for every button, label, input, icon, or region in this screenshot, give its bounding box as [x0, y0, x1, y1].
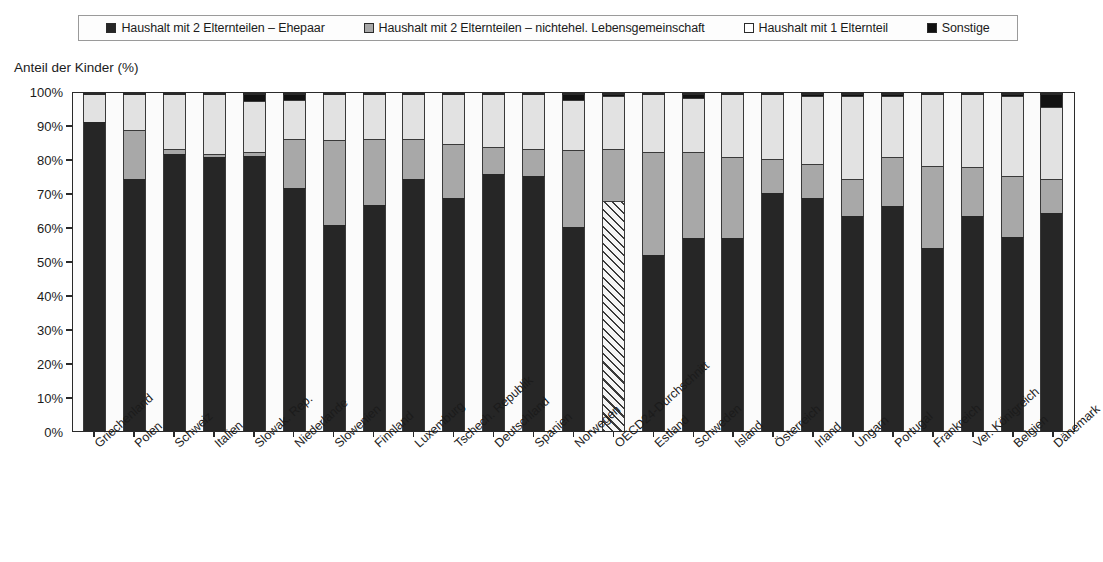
bar-segment-2 [442, 93, 465, 144]
x-axis-tick-mark [772, 432, 774, 437]
chart-legend: Haushalt mit 2 Elternteilen – EhepaarHau… [78, 15, 1018, 41]
bar-segment-1 [682, 152, 705, 238]
filled-black-square-icon [106, 23, 116, 33]
bar-segment-1 [1001, 176, 1024, 237]
bar-segment-0 [363, 205, 386, 431]
bar-segment-2 [1001, 96, 1024, 175]
bar-d-nemark[interactable] [1040, 93, 1063, 431]
legend-item-3[interactable]: Sonstige [927, 21, 990, 35]
bar-segment-2 [482, 93, 505, 147]
bar-sterreich[interactable] [761, 93, 784, 431]
bar-estland[interactable] [642, 93, 665, 431]
bar-top-cap [841, 93, 864, 95]
x-axis-label-slot: Estland [642, 438, 665, 548]
x-axis-label-slot: Schweiz [162, 438, 185, 548]
x-axis-tick-mark [613, 432, 615, 437]
bar-slowenien[interactable] [323, 93, 346, 431]
bar-oecd24-durchschnitt[interactable] [602, 93, 625, 431]
bar-segment-2 [283, 100, 306, 139]
bar-segment-1 [522, 149, 545, 176]
bar-segment-2 [801, 96, 824, 164]
bar-irland[interactable] [801, 93, 824, 431]
bar-segment-2 [841, 96, 864, 179]
bar-ungarn[interactable] [841, 93, 864, 431]
bar-portugal[interactable] [881, 93, 904, 431]
x-axis-label-slot: Deutschland [482, 438, 505, 548]
bar-segment-1 [602, 149, 625, 201]
bar-segment-2 [363, 93, 386, 139]
bar-tschech-republik[interactable] [442, 93, 465, 431]
chart-plot-area [72, 92, 1075, 432]
x-axis-label-slot: Slowak. Rep. [242, 438, 265, 548]
y-axis-title: Anteil der Kinder (%) [14, 60, 139, 75]
y-axis-tick-label: 100% [30, 86, 72, 99]
x-axis-label-slot: Irland [802, 438, 825, 548]
bar-segment-2 [323, 93, 346, 140]
bar-segment-0 [482, 174, 505, 431]
x-axis-tick-mark [573, 432, 575, 437]
x-axis-labels: GriechenlandPolenSchweizItalienSlowak. R… [72, 438, 1075, 548]
bar-norwegen[interactable] [562, 93, 585, 431]
legend-item-2[interactable]: Haushalt mit 1 Elternteil [744, 21, 889, 35]
bar-top-cap [642, 93, 665, 95]
x-axis-tick-mark [812, 432, 814, 437]
legend-item-label: Sonstige [942, 21, 990, 35]
x-axis-label-slot: Ungarn [842, 438, 865, 548]
bar-belgien[interactable] [1001, 93, 1024, 431]
legend-item-0[interactable]: Haushalt mit 2 Elternteilen – Ehepaar [106, 21, 324, 35]
bar-top-cap [761, 93, 784, 95]
bar-top-cap [363, 93, 386, 95]
x-axis-label-slot: OECD24-Durchschnitt [602, 438, 625, 548]
bar-segment-0 [442, 198, 465, 431]
bar-segment-2 [642, 93, 665, 152]
bar-segment-1 [562, 150, 585, 226]
bar-segment-0 [243, 156, 266, 431]
bar-segment-2 [682, 98, 705, 152]
bar-segment-1 [921, 166, 944, 249]
filled-dark-square-icon [927, 23, 937, 33]
bar-top-cap [402, 93, 425, 95]
legend-item-1[interactable]: Haushalt mit 2 Elternteilen – nichtehel.… [364, 21, 705, 35]
bar-segment-0 [402, 179, 425, 431]
bar-griechenland[interactable] [83, 93, 106, 431]
bar-slowak-rep[interactable] [243, 93, 266, 431]
bar-segment-0 [682, 238, 705, 431]
bar-segment-2 [522, 93, 545, 149]
bar-segment-2 [562, 100, 585, 151]
bar-segment-1 [323, 140, 346, 225]
bar-italien[interactable] [203, 93, 226, 431]
bar-top-cap [482, 93, 505, 95]
bar-segment-1 [123, 130, 146, 179]
bar-island[interactable] [721, 93, 744, 431]
legend-item-label: Haushalt mit 1 Elternteil [759, 21, 889, 35]
bar-top-cap [323, 93, 346, 95]
bar-segment-0 [602, 201, 625, 431]
bar-segment-2 [721, 93, 744, 157]
bar-segment-2 [921, 93, 944, 166]
bar-segment-1 [402, 139, 425, 180]
y-axis: 100%90%80%70%60%50%40%30%20%10%0% [0, 92, 72, 432]
bar-segment-2 [402, 93, 425, 139]
bar-segment-1 [482, 147, 505, 174]
x-axis-label-slot: Ver. Königreich [961, 438, 984, 548]
x-axis-label-slot: Finnland [362, 438, 385, 548]
bar-segment-2 [761, 93, 784, 159]
bar-polen[interactable] [123, 93, 146, 431]
bar-deutschland[interactable] [482, 93, 505, 431]
bar-segment-0 [961, 216, 984, 431]
x-axis-label-slot: Niederlande [282, 438, 305, 548]
bar-segment-1 [881, 157, 904, 206]
bar-niederlande[interactable] [283, 93, 306, 431]
bar-finnland[interactable] [363, 93, 386, 431]
bar-top-cap [801, 93, 824, 95]
bar-segment-1 [761, 159, 784, 193]
bar-ver-k-nigreich[interactable] [961, 93, 984, 431]
x-axis-tick-mark [852, 432, 854, 437]
bar-frankreich[interactable] [921, 93, 944, 431]
x-axis-label-slot: Griechenland [82, 438, 105, 548]
bar-top-cap [961, 93, 984, 95]
bar-schweiz[interactable] [163, 93, 186, 431]
bar-luxemburg[interactable] [402, 93, 425, 431]
x-axis-label-slot: Italien [202, 438, 225, 548]
bar-top-cap [921, 93, 944, 95]
